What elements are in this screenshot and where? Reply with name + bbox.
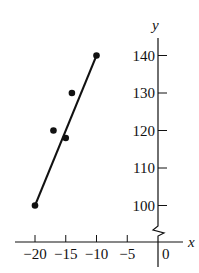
tick-labels: xy−20−15−10−50100110120130140 (23, 17, 195, 262)
y-tick-label: 100 (133, 198, 156, 214)
axes (15, 38, 183, 267)
scatter-plot: xy−20−15−10−50100110120130140 (0, 0, 199, 273)
y-tick-label: 140 (133, 48, 156, 64)
x-tick-label: −10 (85, 246, 108, 262)
y-tick-label: 130 (133, 85, 156, 101)
fitted-line (35, 56, 97, 206)
data-point (50, 127, 57, 134)
tick-marks (35, 56, 167, 243)
data-point (69, 90, 76, 97)
y-tick-label: 120 (133, 123, 156, 139)
x-tick-label: −5 (119, 246, 135, 262)
y-tick-label: 110 (133, 160, 155, 176)
x-axis-label: x (187, 234, 195, 250)
y-axis-label: y (150, 17, 159, 33)
x-tick-label: −15 (54, 246, 77, 262)
x-tick-label: 0 (162, 246, 170, 262)
data-series (32, 52, 100, 209)
y-axis-line-with-break (153, 38, 164, 267)
x-tick-label: −20 (23, 246, 46, 262)
